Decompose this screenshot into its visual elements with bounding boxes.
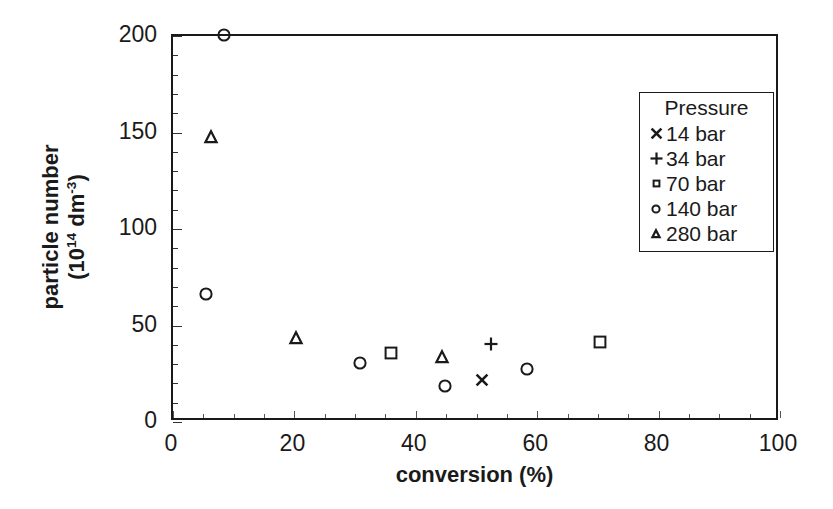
data-point-cross-x bbox=[474, 372, 492, 390]
x-tick-label: 100 bbox=[759, 432, 797, 455]
x-tick-minor bbox=[719, 414, 720, 418]
legend-entry-14-bar: 14 bar bbox=[646, 121, 767, 146]
y-tick-label: 100 bbox=[119, 216, 157, 239]
y-tick-minor bbox=[173, 210, 178, 211]
x-tick-minor bbox=[628, 414, 629, 418]
x-tick-minor bbox=[385, 414, 386, 418]
x-tick-major bbox=[659, 411, 660, 418]
data-point-triangle bbox=[203, 129, 221, 147]
circle-marker-icon bbox=[646, 199, 666, 219]
y-tick-major bbox=[173, 326, 182, 327]
x-tick-label: 0 bbox=[165, 432, 178, 455]
x-tick-major bbox=[173, 411, 174, 418]
x-tick-minor bbox=[568, 414, 569, 418]
triangle-marker-icon bbox=[646, 224, 666, 244]
x-tick-major bbox=[416, 411, 417, 418]
data-point-circle bbox=[352, 355, 370, 373]
legend-entry-label: 14 bar bbox=[666, 123, 726, 144]
y-axis-title-line2: (1014 dm-3) bbox=[64, 174, 89, 280]
x-tick-minor bbox=[477, 414, 478, 418]
y-tick-major bbox=[173, 36, 182, 37]
y-tick-major bbox=[173, 133, 182, 134]
y-tick-minor bbox=[173, 55, 178, 56]
y-tick-minor bbox=[173, 113, 178, 114]
data-point-circle bbox=[437, 378, 455, 396]
data-point-circle bbox=[198, 286, 216, 304]
legend-entry-140-bar: 140 bar bbox=[646, 196, 767, 221]
y-tick-major bbox=[173, 422, 182, 423]
data-point-triangle bbox=[288, 330, 306, 348]
y-tick-minor bbox=[173, 345, 178, 346]
y-tick-minor bbox=[173, 403, 178, 404]
data-point-circle bbox=[216, 27, 234, 45]
x-tick-minor bbox=[325, 414, 326, 418]
data-point-plus bbox=[483, 336, 501, 354]
y-tick-minor bbox=[173, 248, 178, 249]
x-tick-minor bbox=[203, 414, 204, 418]
square-marker-icon bbox=[646, 174, 666, 194]
x-tick-major bbox=[294, 411, 295, 418]
y-tick-label: 0 bbox=[144, 409, 157, 432]
y-tick-minor bbox=[173, 190, 178, 191]
legend: Pressure 14 bar34 bar70 bar140 bar280 ba… bbox=[639, 92, 774, 252]
y-axis-title-line1: particle number bbox=[38, 144, 63, 309]
y-tick-minor bbox=[173, 152, 178, 153]
y-tick-major bbox=[173, 229, 182, 230]
data-point-square bbox=[592, 334, 610, 352]
x-tick-minor bbox=[355, 414, 356, 418]
x-tick-minor bbox=[598, 414, 599, 418]
scatter-chart-figure: particle number (1014 dm-3) conversion (… bbox=[0, 0, 833, 509]
legend-title: Pressure bbox=[646, 96, 767, 120]
y-tick-minor bbox=[173, 364, 178, 365]
x-tick-major bbox=[537, 411, 538, 418]
y-tick-label: 150 bbox=[119, 119, 157, 142]
data-point-circle bbox=[519, 361, 537, 379]
legend-entry-label: 34 bar bbox=[666, 148, 726, 169]
y-tick-minor bbox=[173, 94, 178, 95]
y-tick-label: 50 bbox=[131, 312, 157, 335]
x-axis-title: conversion (%) bbox=[171, 462, 778, 488]
x-tick-label: 60 bbox=[522, 432, 548, 455]
legend-entry-280-bar: 280 bar bbox=[646, 221, 767, 246]
x-tick-minor bbox=[446, 414, 447, 418]
cross-x-marker-icon bbox=[646, 124, 666, 144]
x-tick-label: 40 bbox=[401, 432, 427, 455]
data-point-square bbox=[383, 345, 401, 363]
x-tick-minor bbox=[689, 414, 690, 418]
x-tick-minor bbox=[507, 414, 508, 418]
y-tick-minor bbox=[173, 171, 178, 172]
x-tick-major bbox=[780, 411, 781, 418]
legend-entries: 14 bar34 bar70 bar140 bar280 bar bbox=[646, 121, 767, 246]
y-tick-minor bbox=[173, 268, 178, 269]
x-tick-label: 80 bbox=[644, 432, 670, 455]
x-tick-minor bbox=[264, 414, 265, 418]
x-tick-minor bbox=[234, 414, 235, 418]
legend-entry-70-bar: 70 bar bbox=[646, 171, 767, 196]
plus-marker-icon bbox=[646, 149, 666, 169]
legend-entry-label: 280 bar bbox=[666, 223, 737, 244]
legend-entry-label: 70 bar bbox=[666, 173, 726, 194]
y-tick-label: 200 bbox=[119, 23, 157, 46]
legend-entry-label: 140 bar bbox=[666, 198, 737, 219]
y-tick-minor bbox=[173, 287, 178, 288]
legend-entry-34-bar: 34 bar bbox=[646, 146, 767, 171]
y-tick-minor bbox=[173, 75, 178, 76]
y-axis-title: particle number (1014 dm-3) bbox=[38, 34, 89, 420]
data-point-triangle bbox=[434, 349, 452, 367]
x-tick-label: 20 bbox=[280, 432, 306, 455]
y-tick-minor bbox=[173, 383, 178, 384]
y-tick-minor bbox=[173, 306, 178, 307]
x-tick-minor bbox=[750, 414, 751, 418]
